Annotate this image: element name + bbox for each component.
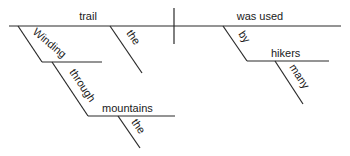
the-mountains-word: the [129, 116, 148, 135]
verb-word: was used [236, 10, 283, 22]
winding-word: Winding [31, 25, 69, 60]
sentence-diagram: trail was used the Winding through mount… [0, 0, 350, 156]
hikers-word: hikers [271, 47, 301, 59]
through-word: through [67, 66, 98, 104]
by-word: by [236, 28, 253, 45]
subject-word: trail [79, 10, 97, 22]
the-modifier-word: the [124, 27, 143, 46]
mountains-word: mountains [102, 102, 153, 114]
